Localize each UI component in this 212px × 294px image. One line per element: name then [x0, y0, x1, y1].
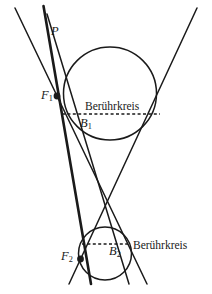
label-f2-letter: F — [61, 249, 69, 263]
label-point-p: P — [51, 25, 59, 38]
upper-tangent-circle — [64, 47, 157, 140]
label-beruehrkreis-upper: Berührkreis — [85, 101, 139, 113]
label-point-b1: B1 — [80, 117, 92, 131]
geometry-figure: P F1 B1 Berührkreis F2 B2 Berührkreis — [0, 0, 212, 294]
secant-line-through-foci — [44, 6, 92, 284]
label-b1-subscript: 1 — [88, 122, 92, 131]
label-f2-subscript: 2 — [69, 255, 73, 264]
label-point-b2: B2 — [109, 245, 121, 259]
label-f1-subscript: 1 — [49, 94, 53, 103]
focus-point-f2-dot — [77, 256, 84, 263]
label-b2-letter: B — [109, 244, 117, 258]
label-b1-letter: B — [80, 116, 88, 130]
label-b2-subscript: 2 — [117, 250, 121, 259]
label-beruehrkreis-lower: Berührkreis — [133, 240, 187, 252]
label-f1-letter: F — [41, 88, 49, 102]
label-point-f2: F2 — [61, 250, 73, 264]
focus-point-f1-dot — [54, 93, 61, 100]
label-point-f1: F1 — [41, 89, 53, 103]
